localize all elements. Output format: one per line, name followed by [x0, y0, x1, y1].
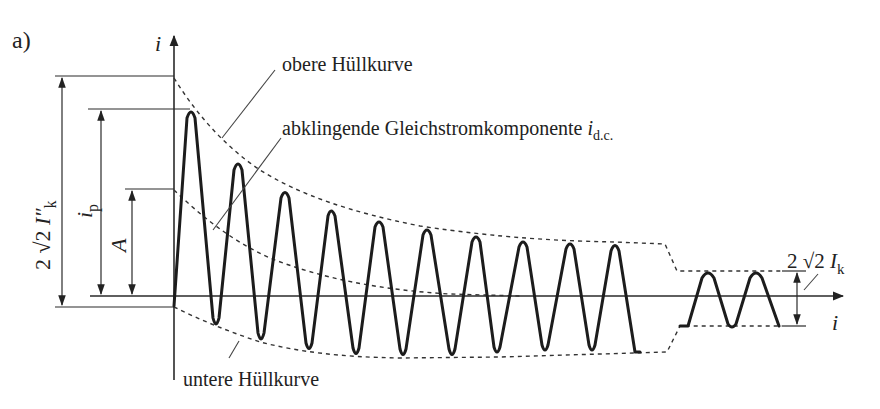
- label-ip: ip: [72, 204, 102, 218]
- steady-state-waveform: [680, 273, 779, 327]
- upper-envelope-label: obere Hüllkurve: [282, 53, 413, 75]
- y-axis-label: i: [155, 31, 161, 56]
- y-axis: i: [155, 31, 174, 380]
- dimension-peak-current: ip: [72, 111, 102, 294]
- short-circuit-current-waveform: [174, 112, 640, 355]
- x-axis-label: i: [832, 310, 838, 335]
- panel-label: a): [12, 27, 31, 53]
- dimension-dc-offset: A: [106, 191, 132, 294]
- label-2sqrt2-Ik-subtransient: 2 √2 I″k: [30, 200, 59, 270]
- dimension-initial-peak-to-peak: 2 √2 I″k: [30, 78, 62, 305]
- label-2sqrt2-Ik: 2 √2 Ik: [787, 249, 845, 277]
- short-circuit-current-diagram: a) i i 2 √2 I″k ip A: [0, 0, 880, 409]
- x-axis: i: [90, 296, 843, 335]
- annotation-lower-envelope: untere Hüllkurve: [183, 341, 319, 390]
- reference-lines: [55, 76, 190, 307]
- label-A: A: [106, 238, 131, 254]
- annotation-dc-component: abklingende Gleichstromkomponente id.c.: [213, 117, 613, 230]
- lower-envelope-label: untere Hüllkurve: [183, 368, 319, 390]
- upper-envelope-curve: [174, 78, 782, 271]
- dc-component-label: abklingende Gleichstromkomponente id.c.: [282, 117, 613, 143]
